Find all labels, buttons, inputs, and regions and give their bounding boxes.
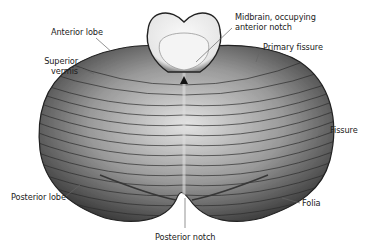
label-midbrain-line1: Midbrain, occupying: [235, 12, 316, 22]
label-posterior-notch: Posterior notch: [155, 232, 215, 242]
cerebellum-diagram: Anterior lobe Superior vermis Midbrain, …: [0, 0, 368, 252]
label-fissure: Fissure: [330, 125, 358, 135]
label-folia: Folia: [302, 198, 321, 208]
label-midbrain-line2: anterior notch: [235, 22, 292, 32]
label-primary-fissure: Primary fissure: [263, 42, 323, 52]
label-posterior-lobe: Posterior lobe: [11, 192, 66, 202]
label-superior-vermis-line2: vermis: [44, 66, 78, 76]
label-superior-vermis-line1: Superior: [44, 56, 78, 66]
cerebellum-illustration: [0, 0, 368, 252]
label-anterior-lobe: Anterior lobe: [51, 27, 103, 37]
